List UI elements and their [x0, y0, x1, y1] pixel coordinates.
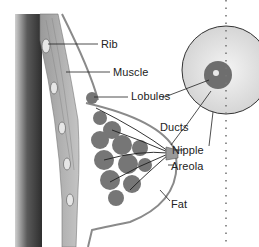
- anatomy-diagram: Rib Muscle Lobules Ducts Nipple Areola F…: [0, 0, 259, 247]
- label-rib: Rib: [101, 38, 118, 50]
- label-ducts: Ducts: [160, 121, 189, 133]
- label-muscle: Muscle: [113, 66, 148, 78]
- chest-wall: [15, 14, 42, 247]
- diagram-illustration: [0, 0, 259, 247]
- label-areola: Areola: [171, 160, 203, 172]
- glandular-tissue: [86, 92, 152, 206]
- inset-view: [182, 26, 259, 114]
- label-lobules: Lobules: [131, 90, 170, 102]
- label-fat: Fat: [171, 198, 187, 210]
- label-nipple: Nipple: [172, 144, 204, 156]
